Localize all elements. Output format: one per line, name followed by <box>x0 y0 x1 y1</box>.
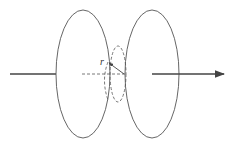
diagram-canvas: r <box>0 0 231 148</box>
diagram-svg: r <box>0 0 231 148</box>
radius-label: r <box>100 56 104 67</box>
dashed-arc <box>105 62 109 100</box>
radius-arrow <box>109 63 124 74</box>
